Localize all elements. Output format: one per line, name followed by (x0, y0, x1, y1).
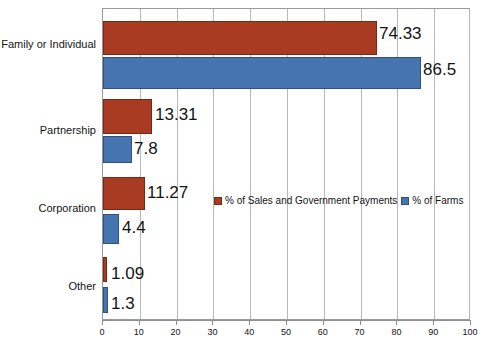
x-tick-label-70: 70 (345, 327, 375, 337)
bar-value-corporation-farms: 4.4 (122, 219, 146, 236)
legend-item-farms[interactable]: % of Farms (401, 195, 463, 206)
gridline-60 (324, 9, 325, 319)
x-tick-80 (396, 320, 397, 325)
bar-value-partnership-farms: 7.8 (134, 140, 158, 157)
legend: % of Sales and Government Payments % of … (214, 195, 463, 206)
plot-area: % of Sales and Government Payments % of … (102, 8, 470, 320)
bar-value-family-farms: 86.5 (423, 61, 456, 78)
bar-value-other-farms: 1.3 (111, 295, 135, 312)
x-tick-70 (360, 320, 361, 325)
gridline-70 (361, 9, 362, 319)
bar-corporation-farms[interactable] (103, 214, 119, 244)
x-tick-40 (249, 320, 250, 325)
bar-partnership-farms[interactable] (103, 136, 132, 163)
legend-swatch-icon-sales (214, 197, 222, 205)
category-label-corporation: Corporation (0, 202, 96, 214)
category-label-family: Family or Individual (0, 38, 96, 50)
bar-value-other-sales: 1.09 (111, 265, 144, 282)
x-tick-label-20: 20 (161, 327, 191, 337)
bar-partnership-sales[interactable] (103, 99, 152, 134)
bar-corporation-sales[interactable] (103, 177, 145, 210)
x-tick-label-60: 60 (308, 327, 338, 337)
x-tick-label-40: 40 (234, 327, 264, 337)
legend-item-sales[interactable]: % of Sales and Government Payments (214, 195, 397, 206)
category-label-partnership: Partnership (0, 124, 96, 136)
bar-other-sales[interactable] (103, 257, 107, 282)
gridline-40 (250, 9, 251, 319)
category-label-other: Other (0, 280, 96, 292)
gridline-30 (213, 9, 214, 319)
bar-value-partnership-sales: 13.31 (155, 106, 198, 123)
x-tick-label-10: 10 (124, 327, 154, 337)
legend-swatch-icon-farms (401, 197, 409, 205)
bar-value-family-sales: 74.33 (379, 25, 422, 42)
gridline-50 (287, 9, 288, 319)
bar-family-sales[interactable] (103, 21, 377, 55)
legend-label-sales: % of Sales and Government Payments (225, 195, 397, 206)
bar-value-corporation-sales: 11.27 (147, 184, 188, 201)
x-tick-label-30: 30 (197, 327, 227, 337)
x-tick-label-90: 90 (418, 327, 448, 337)
x-tick-label-100: 100 (455, 327, 485, 337)
legend-label-farms: % of Farms (412, 195, 463, 206)
x-tick-20 (176, 320, 177, 325)
gridline-80 (397, 9, 398, 319)
x-tick-90 (433, 320, 434, 325)
x-tick-50 (286, 320, 287, 325)
x-tick-60 (323, 320, 324, 325)
bar-family-farms[interactable] (103, 57, 421, 89)
x-tick-10 (139, 320, 140, 325)
gridline-90 (434, 9, 435, 319)
x-tick-label-0: 0 (87, 327, 117, 337)
x-tick-label-50: 50 (271, 327, 301, 337)
bar-other-farms[interactable] (103, 287, 108, 313)
bar-chart: % of Sales and Government Payments % of … (0, 0, 488, 349)
gridline-20 (177, 9, 178, 319)
x-tick-0 (102, 320, 103, 325)
x-tick-label-80: 80 (381, 327, 411, 337)
x-tick-30 (212, 320, 213, 325)
x-tick-100 (470, 320, 471, 325)
